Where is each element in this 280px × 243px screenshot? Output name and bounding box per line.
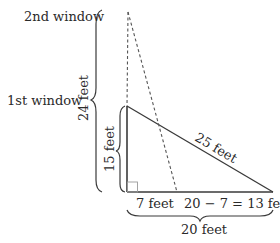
label-second-window: 2nd window <box>24 9 104 24</box>
ladder-second-position-dashed <box>128 12 177 192</box>
label-15-feet: 15 feet <box>102 125 117 172</box>
label-7-feet: 7 feet <box>136 196 175 211</box>
label-first-window: 1st window <box>7 93 82 108</box>
label-13-feet: 20 − 7 = 13 feet <box>184 196 280 211</box>
ladder-first-position <box>127 106 273 192</box>
label-25-feet: 25 feet <box>192 130 240 167</box>
brace-20-feet <box>127 210 273 221</box>
right-angle-marker <box>128 182 138 192</box>
brace-15-feet <box>116 106 125 192</box>
label-24-feet: 24 feet <box>76 74 91 121</box>
brace-24-feet <box>91 10 102 192</box>
label-20-feet: 20 feet <box>181 222 228 237</box>
wall-extension-dashed <box>127 12 128 106</box>
ladder-windows-diagram: 2nd window 1st window 24 feet 15 feet 25… <box>0 0 280 243</box>
